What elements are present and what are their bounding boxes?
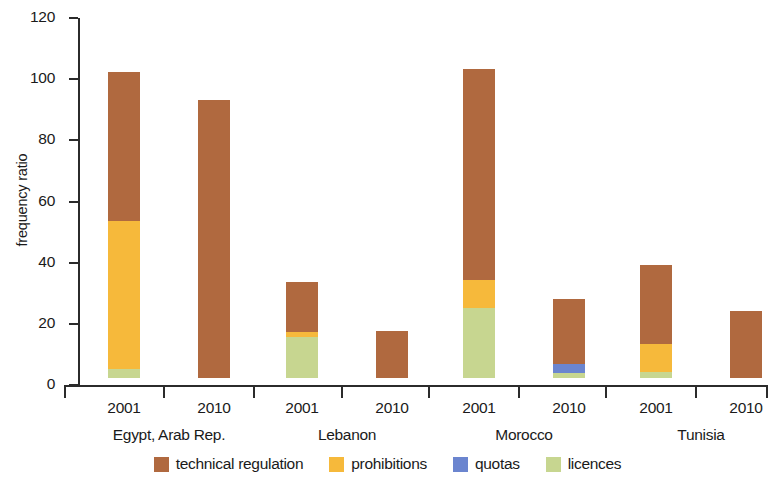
year-label: 2010 — [174, 399, 254, 417]
year-label: 2001 — [439, 399, 519, 417]
stacked-bar-chart: frequency ratio 020406080100120 20012010… — [0, 0, 775, 484]
x-axis-separator — [341, 387, 343, 398]
y-axis-tick — [69, 17, 78, 19]
year-label: 2010 — [352, 399, 432, 417]
y-axis-tick — [69, 262, 78, 264]
y-axis-tick-label: 100 — [9, 70, 55, 86]
x-axis-separator — [163, 387, 165, 398]
bar-segment-technical-regulation — [198, 100, 230, 378]
legend-label: prohibitions — [351, 455, 427, 473]
bar-segment-technical-regulation — [108, 72, 140, 220]
bar-segment-prohibitions — [640, 344, 672, 372]
plot-area: 020406080100120 200120102001201020012010… — [78, 10, 768, 380]
x-axis-separator — [253, 387, 255, 398]
bar-morocco-2010[interactable] — [553, 298, 585, 378]
legend-item-licences[interactable]: licences — [546, 455, 622, 473]
bar-segment-technical-regulation — [553, 299, 585, 365]
bar-segment-licences — [108, 369, 140, 378]
x-axis-separator — [518, 387, 520, 398]
x-axis-separator — [428, 387, 430, 398]
x-axis-separator — [64, 387, 66, 398]
bar-segment-technical-regulation — [376, 331, 408, 378]
bar-lebanon-2010[interactable] — [376, 331, 408, 378]
bar-tunisia-2001[interactable] — [640, 265, 672, 378]
country-label: Tunisia — [571, 426, 775, 444]
bar-segment-technical-regulation — [463, 69, 495, 280]
y-axis-tick-label: 80 — [9, 131, 55, 147]
y-axis-tick-label: 20 — [9, 315, 55, 331]
legend-item-prohibitions[interactable]: prohibitions — [329, 455, 427, 473]
bar-tunisia-2010[interactable] — [730, 311, 762, 378]
x-axis-separator — [766, 387, 768, 398]
bar-segment-technical-regulation — [640, 265, 672, 345]
chart-legend: technical regulationprohibitionsquotasli… — [0, 455, 775, 473]
bar-segment-licences — [640, 372, 672, 378]
bar-lebanon-2001[interactable] — [286, 282, 318, 378]
y-axis-tick — [69, 384, 78, 386]
legend-item-quotas[interactable]: quotas — [453, 455, 520, 473]
bar-segment-technical-regulation — [286, 282, 318, 332]
x-axis-separator — [695, 387, 697, 398]
bar-segment-licences — [553, 373, 585, 378]
legend-label: licences — [568, 455, 622, 473]
year-label: 2001 — [262, 399, 342, 417]
legend-swatch-icon — [154, 457, 169, 472]
bar-segment-licences — [463, 308, 495, 378]
bar-segment-technical-regulation — [730, 311, 762, 378]
bar-egypt-arab-rep-2010[interactable] — [198, 100, 230, 378]
legend-label: technical regulation — [176, 455, 304, 473]
legend-swatch-icon — [546, 457, 561, 472]
year-label: 2010 — [529, 399, 609, 417]
x-axis-separator — [605, 387, 607, 398]
legend-label: quotas — [475, 455, 520, 473]
x-axis-line — [64, 385, 768, 387]
y-axis-tick-label: 60 — [9, 193, 55, 209]
year-label: 2010 — [706, 399, 775, 417]
bar-segment-prohibitions — [463, 280, 495, 308]
y-axis-tick — [69, 201, 78, 203]
legend-item-technical-regulation[interactable]: technical regulation — [154, 455, 304, 473]
bar-egypt-arab-rep-2001[interactable] — [108, 72, 140, 378]
legend-swatch-icon — [453, 457, 468, 472]
year-label: 2001 — [84, 399, 164, 417]
bar-segment-prohibitions — [108, 221, 140, 369]
y-axis-tick-label: 0 — [9, 376, 55, 392]
y-axis-tick — [69, 139, 78, 141]
y-axis-tick — [69, 78, 78, 80]
y-axis-line — [78, 18, 80, 387]
y-axis-tick-label: 40 — [9, 254, 55, 270]
year-label: 2001 — [616, 399, 696, 417]
bar-segment-quotas — [553, 364, 585, 373]
bar-morocco-2001[interactable] — [463, 69, 495, 378]
y-axis-tick — [69, 323, 78, 325]
legend-swatch-icon — [329, 457, 344, 472]
y-axis-tick-label: 120 — [9, 9, 55, 25]
bar-segment-licences — [286, 337, 318, 378]
